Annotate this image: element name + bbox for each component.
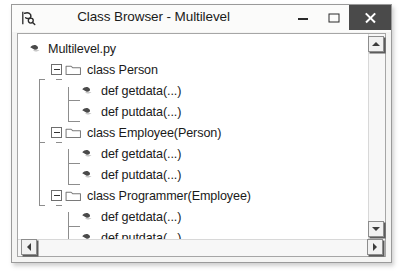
scroll-right-button[interactable]	[367, 239, 383, 255]
python-file-icon	[28, 42, 43, 56]
folder-icon	[65, 126, 82, 139]
minimize-button[interactable]	[287, 5, 318, 30]
scroll-left-button[interactable]	[21, 239, 37, 255]
tree-node-label: def putdata(...)	[101, 168, 181, 182]
tree-node-label: def putdata(...)	[101, 231, 181, 240]
maximize-button[interactable]	[318, 5, 349, 30]
tree-node-method[interactable]: def getdata(...)	[18, 143, 368, 164]
tree-node-root[interactable]: Multilevel.py	[18, 38, 368, 59]
python-method-icon	[80, 84, 95, 98]
python-method-icon	[80, 105, 95, 119]
tree-node-label: class Programmer(Employee)	[87, 189, 251, 203]
collapse-toggle-icon[interactable]	[51, 190, 62, 201]
tree-viewport[interactable]: Multilevel.py class Person def	[18, 34, 368, 239]
folder-icon	[65, 189, 82, 202]
collapse-toggle-icon[interactable]	[51, 127, 62, 138]
window-controls	[287, 5, 391, 30]
tree-node-label: Multilevel.py	[48, 42, 116, 56]
close-icon	[364, 12, 376, 24]
tree-node-method[interactable]: def putdata(...)	[18, 164, 368, 185]
tree-node-label: def putdata(...)	[101, 105, 181, 119]
scrollbar-corner	[368, 239, 385, 256]
tree-node-label: def getdata(...)	[101, 84, 181, 98]
horizontal-scrollbar[interactable]	[18, 239, 368, 256]
maximize-icon	[328, 13, 339, 22]
class-tree: Multilevel.py class Person def	[18, 34, 368, 239]
tree-node-label: class Employee(Person)	[87, 126, 221, 140]
scroll-left-arrow	[27, 243, 31, 251]
scroll-right-arrow	[373, 243, 377, 251]
tree-node-method[interactable]: def putdata(...)	[18, 101, 368, 122]
tree-node-method[interactable]: def getdata(...)	[18, 80, 368, 101]
tree-node-class-programmer[interactable]: class Programmer(Employee)	[18, 185, 368, 206]
tree-node-method[interactable]: def putdata(...)	[18, 227, 368, 239]
tree-node-method[interactable]: def getdata(...)	[18, 206, 368, 227]
folder-icon	[65, 63, 82, 76]
tree-node-class-person[interactable]: class Person	[18, 59, 368, 80]
class-browser-window: Class Browser - Multilevel	[11, 4, 392, 263]
tree-node-label: class Person	[87, 63, 158, 77]
scroll-up-arrow	[372, 42, 380, 46]
scroll-down-arrow	[372, 227, 380, 231]
tree-node-label: def getdata(...)	[101, 210, 181, 224]
client-area: Multilevel.py class Person def	[17, 33, 386, 257]
scroll-up-button[interactable]	[368, 36, 384, 52]
python-method-icon	[80, 231, 95, 240]
minimize-icon	[298, 18, 308, 20]
vertical-scrollbar[interactable]	[368, 34, 385, 239]
scroll-down-button[interactable]	[368, 221, 384, 237]
title-bar[interactable]: Class Browser - Multilevel	[12, 5, 391, 32]
python-method-icon	[80, 147, 95, 161]
close-button[interactable]	[349, 5, 391, 30]
collapse-toggle-icon[interactable]	[51, 64, 62, 75]
tree-node-label: def getdata(...)	[101, 147, 181, 161]
python-method-icon	[80, 168, 95, 182]
tree-node-class-employee[interactable]: class Employee(Person)	[18, 122, 368, 143]
python-method-icon	[80, 210, 95, 224]
